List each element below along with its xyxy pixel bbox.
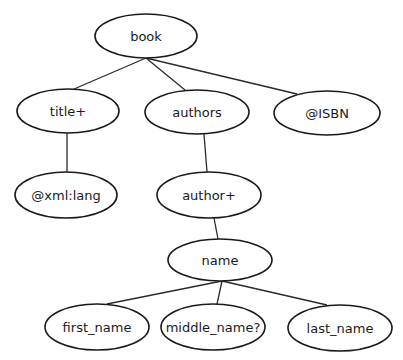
node-author: author+ <box>157 172 261 218</box>
node-first-name: first_name <box>45 304 149 350</box>
edge-authors-author <box>204 134 207 172</box>
node-middle-name: middle_name? <box>161 304 265 350</box>
node-last-name: last_name <box>288 305 392 351</box>
node-title: title+ <box>17 89 119 133</box>
node-xml-lang: @xml:lang <box>15 172 117 218</box>
edge-name-last-name <box>222 281 327 305</box>
node-label: authors <box>172 105 222 120</box>
node-label: @ISBN <box>305 106 349 121</box>
node-label: first_name <box>63 320 132 335</box>
node-label: book <box>130 29 162 44</box>
edge-author-name <box>214 218 218 239</box>
tree-diagram: book title+ authors @ISBN @xml:lang auth… <box>0 0 403 360</box>
node-authors: authors <box>145 90 249 134</box>
node-label: title+ <box>50 104 86 119</box>
node-name: name <box>168 239 272 281</box>
nodes: book title+ authors @ISBN @xml:lang auth… <box>15 14 392 351</box>
node-label: last_name <box>307 321 374 336</box>
node-label: middle_name? <box>166 320 261 335</box>
node-label: author+ <box>182 188 236 203</box>
edge-book-title <box>74 58 146 89</box>
node-label: name <box>202 253 239 268</box>
edge-name-first-name <box>107 281 222 304</box>
edge-name-middle-name <box>217 281 222 304</box>
node-book: book <box>95 14 197 58</box>
node-label: @xml:lang <box>31 188 100 203</box>
node-isbn: @ISBN <box>274 91 380 135</box>
